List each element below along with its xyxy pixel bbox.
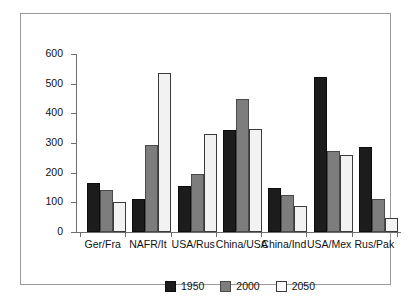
y-tick-600: 600 (71, 54, 76, 55)
y-tick-0: 0 (71, 232, 76, 233)
category-label-usa-rus: USA/Rus (171, 238, 216, 251)
legend-swatch-1950 (165, 281, 176, 292)
category-label-rus-pak: Rus/Pak (352, 238, 397, 251)
x-tick (397, 232, 398, 237)
y-tick-label: 400 (45, 106, 63, 119)
bar-china-ind-2050[interactable] (294, 206, 307, 232)
x-tick (171, 232, 172, 237)
y-tick-100: 100 (71, 202, 76, 203)
legend-swatch-2050 (276, 281, 287, 292)
y-tick-label: 200 (45, 166, 63, 179)
bar-group (87, 54, 126, 232)
bar-rus-pak-2050[interactable] (385, 218, 398, 232)
x-tick (352, 232, 353, 237)
y-tick-label: 300 (45, 136, 63, 149)
bar-usa-rus-1950[interactable] (178, 186, 191, 232)
bar-china-usa-2000[interactable] (236, 99, 249, 233)
bar-china-ind-1950[interactable] (268, 188, 281, 232)
bar-rus-pak-1950[interactable] (359, 147, 372, 232)
y-tick-label: 0 (57, 225, 63, 238)
category-label-china-ind: China/Ind (261, 238, 306, 251)
y-tick-200: 200 (71, 173, 76, 174)
bar-group-bars (132, 54, 171, 232)
x-tick (261, 232, 262, 237)
bar-group (268, 54, 307, 232)
x-tick (216, 232, 217, 237)
bar-group-bars (268, 54, 307, 232)
y-tick-label: 100 (45, 195, 63, 208)
bar-group-bars (223, 54, 262, 232)
category-label-china-usa: China/USA (216, 238, 261, 251)
bar-group-bars (314, 54, 353, 232)
legend-label: 2000 (236, 280, 259, 293)
legend-item-1950[interactable]: 1950 (165, 280, 204, 293)
bar-usa-rus-2000[interactable] (191, 174, 204, 232)
category-label-usa-mex: USA/Mex (306, 238, 351, 251)
chart-legend: 195020002050 (76, 280, 404, 293)
bar-nafr-it-2050[interactable] (158, 73, 171, 232)
legend-item-2000[interactable]: 2000 (220, 280, 259, 293)
bar-china-usa-1950[interactable] (223, 130, 236, 232)
bar-group-bars (178, 54, 217, 232)
x-tick (306, 232, 307, 237)
y-tick-300: 300 (71, 143, 76, 144)
y-tick-400: 400 (71, 113, 76, 114)
bar-rus-pak-2000[interactable] (372, 199, 385, 232)
bar-group (223, 54, 262, 232)
bar-ger-fra-2050[interactable] (113, 202, 126, 232)
bar-group-bars (87, 54, 126, 232)
bar-usa-mex-1950[interactable] (314, 77, 327, 232)
chart-figure: 0100200300400500600 Ger/FraNAFR/ItUSA/Ru… (0, 0, 411, 297)
y-tick-label: 500 (45, 77, 63, 90)
bar-group (314, 54, 353, 232)
bar-nafr-it-1950[interactable] (132, 199, 145, 232)
x-tick (125, 232, 126, 237)
y-tick-500: 500 (71, 84, 76, 85)
bar-nafr-it-2000[interactable] (145, 145, 158, 232)
category-label-nafr-it: NAFR/It (125, 238, 170, 251)
bar-china-usa-2050[interactable] (249, 129, 262, 232)
y-tick-label: 600 (45, 47, 63, 60)
bar-ger-fra-1950[interactable] (87, 183, 100, 232)
bar-china-ind-2000[interactable] (281, 195, 294, 232)
category-label-ger-fra: Ger/Fra (80, 238, 125, 251)
bar-group (359, 54, 398, 232)
legend-swatch-2000 (220, 281, 231, 292)
legend-item-2050[interactable]: 2050 (276, 280, 315, 293)
legend-label: 1950 (181, 280, 204, 293)
bar-ger-fra-2000[interactable] (100, 190, 113, 232)
figure-frame: 0100200300400500600 Ger/FraNAFR/ItUSA/Ru… (20, 13, 391, 285)
bar-usa-rus-2050[interactable] (204, 134, 217, 232)
plot-area: 0100200300400500600 Ger/FraNAFR/ItUSA/Ru… (76, 54, 404, 232)
x-tick (80, 232, 81, 237)
bar-usa-mex-2000[interactable] (327, 151, 340, 232)
bar-usa-mex-2050[interactable] (340, 155, 353, 232)
bar-group-bars (359, 54, 398, 232)
y-axis-line (76, 54, 77, 233)
bar-group (178, 54, 217, 232)
bar-group (132, 54, 171, 232)
legend-label: 2050 (292, 280, 315, 293)
